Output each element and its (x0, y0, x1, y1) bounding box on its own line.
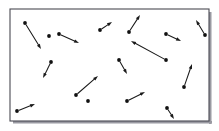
particle-dot (182, 85, 186, 89)
particle-dot (165, 106, 169, 110)
particle-dot (23, 21, 27, 25)
particle-dot (127, 30, 131, 34)
particle-dot (164, 32, 168, 36)
particle-dot (98, 28, 102, 32)
particle-dot (125, 99, 129, 103)
particle-dot (74, 93, 78, 97)
particle-dot (86, 99, 90, 103)
vector-field-canvas (0, 0, 219, 131)
particle-dot (117, 58, 121, 62)
vector-field-figure (0, 0, 219, 131)
particle-dot (203, 33, 207, 37)
plot-frame-border (10, 9, 209, 121)
particle-dot (57, 32, 61, 36)
particle-dot (49, 60, 53, 64)
particle-dot (15, 109, 19, 113)
frame-group (10, 9, 212, 124)
particle-dot (164, 58, 168, 62)
particle-dot (47, 34, 51, 38)
